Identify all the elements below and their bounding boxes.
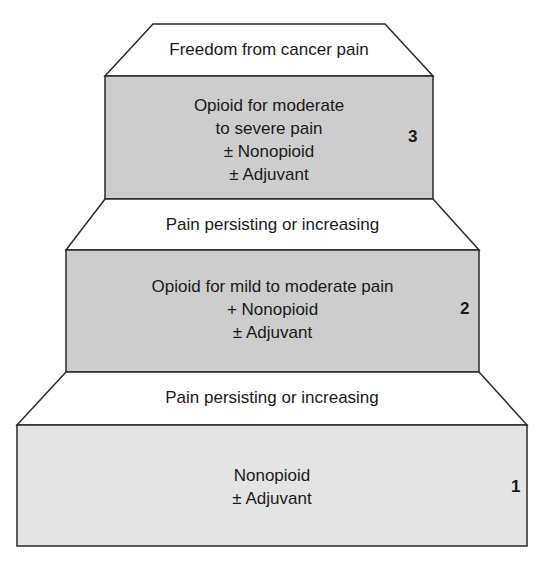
- step-2-number: 2: [460, 300, 469, 318]
- top-label-text: Freedom from cancer pain: [105, 38, 433, 61]
- step-3-line-3: ± Nonopioid: [105, 140, 433, 163]
- step-1-line-1: Nonopioid: [17, 464, 527, 487]
- transition-1-text: Pain persisting or increasing: [66, 213, 479, 236]
- step-1-label: Nonopioid ± Adjuvant: [17, 464, 527, 510]
- step-3-line-1: Opioid for moderate: [105, 94, 433, 117]
- transition-2-label: Pain persisting or increasing: [17, 386, 527, 409]
- step-1-line-2: ± Adjuvant: [17, 487, 527, 510]
- step-2-line-3: ± Adjuvant: [66, 321, 479, 344]
- step-2-line-1: Opioid for mild to moderate pain: [66, 275, 479, 298]
- step-1-number: 1: [511, 478, 520, 496]
- transition-2-text: Pain persisting or increasing: [17, 386, 527, 409]
- step-2-label: Opioid for mild to moderate pain + Nonop…: [66, 275, 479, 344]
- step-2-line-2: + Nonopioid: [66, 298, 479, 321]
- step-3-label: Opioid for moderate to severe pain ± Non…: [105, 94, 433, 186]
- step-3-line-4: ± Adjuvant: [105, 163, 433, 186]
- transition-1-label: Pain persisting or increasing: [66, 213, 479, 236]
- step-3-number: 3: [408, 128, 417, 146]
- step-3-line-2: to severe pain: [105, 117, 433, 140]
- top-label: Freedom from cancer pain: [105, 38, 433, 61]
